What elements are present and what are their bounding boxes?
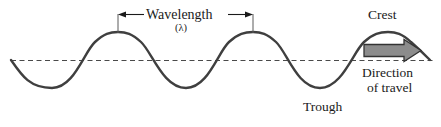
crest-label: Crest: [368, 8, 397, 23]
direction-label-line2: of travel: [362, 81, 413, 96]
wavelength-arrow-left-head: [118, 12, 126, 18]
direction-label-line1: Direction: [362, 65, 413, 80]
trough-label: Trough: [303, 100, 342, 115]
wavelength-arrow-right-head: [245, 12, 253, 18]
wave-diagram: Wavelength (λ) Crest Trough Directionof …: [0, 0, 441, 127]
direction-of-travel-label: Directionof travel: [362, 66, 413, 95]
lambda-symbol-label: (λ): [175, 22, 187, 33]
wavelength-label: Wavelength: [146, 7, 213, 22]
